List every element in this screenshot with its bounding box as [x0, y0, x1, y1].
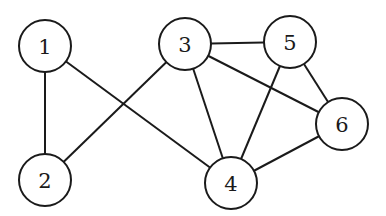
node-label: 4: [224, 172, 237, 196]
graph-diagram: 123456: [0, 0, 386, 216]
edge-2-3: [45, 44, 185, 180]
edge-1-4: [45, 46, 231, 183]
node-2: 2: [19, 154, 71, 206]
node-5: 5: [264, 16, 316, 68]
node-label: 2: [38, 169, 51, 193]
node-label: 3: [178, 33, 191, 57]
node-4: 4: [205, 157, 257, 209]
node-label: 6: [335, 113, 348, 137]
node-3: 3: [159, 18, 211, 70]
node-label: 5: [283, 31, 296, 55]
nodes-layer: 123456: [19, 16, 368, 209]
node-6: 6: [316, 98, 368, 150]
node-1: 1: [19, 20, 71, 72]
node-label: 1: [38, 35, 51, 59]
